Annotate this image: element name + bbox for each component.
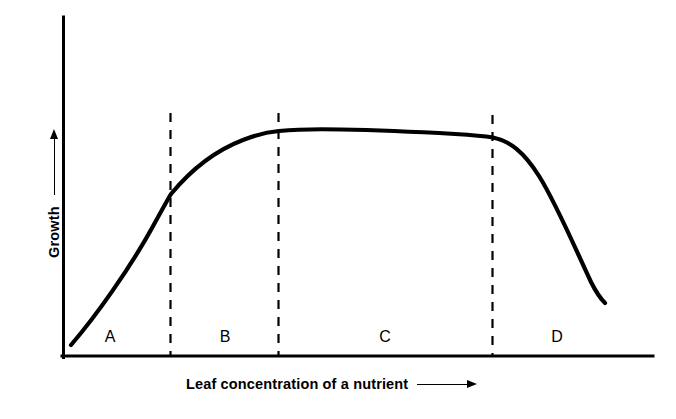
region-label-c: C — [365, 329, 405, 345]
region-label-b: B — [205, 329, 245, 345]
region-label-a: A — [90, 329, 130, 345]
x-axis-title-text: Leaf concentration of a nutrient — [186, 376, 408, 392]
arrow-up-icon — [49, 129, 59, 195]
arrow-right-icon — [417, 379, 477, 389]
nutrient-response-chart: A B C D Leaf concentration of a nutrient… — [0, 0, 676, 419]
x-axis-title: Leaf concentration of a nutrient — [186, 376, 477, 392]
y-axis-title-text: Growth — [46, 206, 62, 258]
region-label-d: D — [537, 329, 577, 345]
chart-plot-area — [0, 0, 676, 419]
y-axis-title: Growth — [46, 58, 62, 258]
growth-response-curve — [71, 129, 605, 345]
